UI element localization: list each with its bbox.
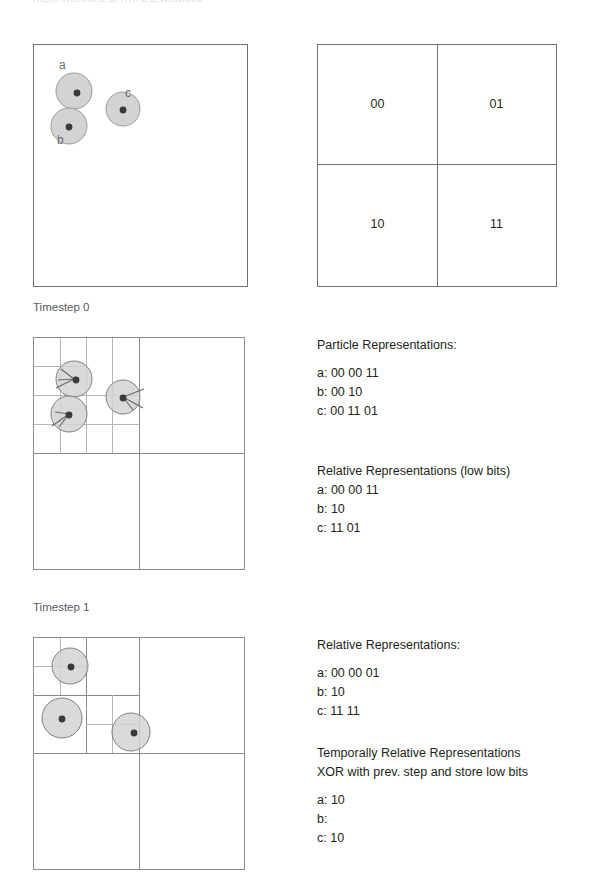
timestep0-textblock-particle-reps: Particle Representations: a: 00 00 11 b:… <box>317 336 457 421</box>
timestep0-particles <box>34 338 246 571</box>
continuous-space-panel: a b c <box>33 44 248 287</box>
t0-particle-rep-b: b: 00 10 <box>317 383 457 402</box>
t1-grid-v-level3-c <box>112 695 113 753</box>
timestep1-textblock-temporal-reps: Temporally Relative Representations XOR … <box>317 744 528 848</box>
timestep0-textblock-relative-reps: Relative Representations (low bits) a: 0… <box>317 462 510 538</box>
quadrant-key-vline <box>437 45 438 286</box>
t1-relative-rep-b: b: 10 <box>317 683 460 702</box>
t0-grid-v-level3-b <box>60 395 61 453</box>
t1-grid-v-level2 <box>86 638 87 753</box>
t0-grid-v-level3-a <box>60 338 61 395</box>
t0-grid-v-level1 <box>139 338 140 569</box>
diagram-page: HIERARCHICAL SPATIAL ENCODING a b c 00 0… <box>0 0 610 892</box>
t1-grid-v-level1 <box>139 638 140 869</box>
timestep1-caption: Timestep 1 <box>33 601 89 613</box>
quadrant-cell-00: 00 <box>318 97 437 111</box>
t1-temporal-rep-a: a: 10 <box>317 791 528 810</box>
t1-temporal-rep-b: b: <box>317 810 528 829</box>
t0-particle-rep-c: c: 00 11 01 <box>317 402 457 421</box>
t0-relative-rep-a: a: 00 00 11 <box>317 481 510 500</box>
t0-heading-relative-reps: Relative Representations (low bits) <box>317 462 510 481</box>
t0-particle-rep-a: a: 00 00 11 <box>317 364 457 383</box>
quadrant-cell-11: 11 <box>437 217 556 231</box>
timestep1-quadtree-panel <box>33 637 245 870</box>
particle-label-a: a <box>59 58 66 72</box>
t1-relative-rep-a: a: 00 00 01 <box>317 664 460 683</box>
quadrant-key-panel: 00 01 10 11 <box>317 44 557 287</box>
quadrant-cell-10: 10 <box>318 217 437 231</box>
quadrant-cell-01: 01 <box>437 97 556 111</box>
timestep0-caption: Timestep 0 <box>33 301 89 313</box>
timestep0-quadtree-panel <box>33 337 245 570</box>
t1-heading-temporal-reps: Temporally Relative Representations <box>317 744 528 763</box>
page-header-ghost-text: HIERARCHICAL SPATIAL ENCODING <box>33 0 203 6</box>
t1-heading-relative-reps: Relative Representations: <box>317 636 460 655</box>
t1-temporal-gap <box>317 782 528 791</box>
t1-heading-temporal-reps-sub: XOR with prev. step and store low bits <box>317 763 528 782</box>
t0-grid-v-level3-c <box>112 338 113 453</box>
t0-relative-rep-c: c: 11 01 <box>317 519 510 538</box>
timestep1-particles <box>34 638 246 871</box>
t0-grid-h-level3-d <box>86 424 139 425</box>
t1-relative-rep-c: c: 11 11 <box>317 702 460 721</box>
timestep1-textblock-relative-reps: Relative Representations: a: 00 00 01 b:… <box>317 636 460 721</box>
continuous-space-particles <box>34 45 249 288</box>
t0-relative-rep-b: b: 10 <box>317 500 510 519</box>
t0-heading-particle-reps: Particle Representations: <box>317 336 457 355</box>
particle-label-c: c <box>125 86 131 100</box>
t1-temporal-rep-c: c: 10 <box>317 829 528 848</box>
particle-label-b: b <box>57 133 64 147</box>
t1-grid-v-level3-a <box>60 638 61 695</box>
